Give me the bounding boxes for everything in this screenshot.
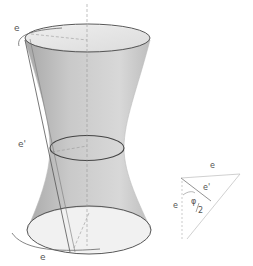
top-interior [26, 25, 150, 51]
inset-label-e-top: e [210, 161, 215, 170]
inset-triangle: e e' e φ 2 [173, 161, 240, 240]
inset-angle-two: 2 [198, 206, 203, 215]
inset-angle-arc [183, 192, 195, 195]
inset-angle-phi: φ [191, 197, 196, 206]
hyperboloid-diagram: e e' e e e' e φ 2 [0, 0, 253, 266]
label-e-top: e [14, 23, 20, 33]
label-e-prime-waist: e' [18, 139, 26, 149]
inset-hypotenuse [187, 174, 240, 239]
inset-label-e-prime: e' [203, 183, 210, 192]
label-e-bottom: e [40, 252, 46, 262]
inset-top-edge [181, 174, 240, 178]
bottom-interior [27, 207, 151, 253]
inset-label-e-left: e [173, 201, 178, 210]
